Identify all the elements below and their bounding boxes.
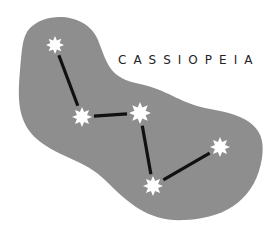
cassiopeia-diagram: CASSIOPEIA bbox=[0, 0, 278, 236]
star-icon bbox=[129, 102, 151, 124]
star-icon bbox=[46, 36, 64, 54]
star-icon bbox=[72, 107, 92, 127]
star-icon bbox=[143, 176, 163, 196]
constellation-title: CASSIOPEIA bbox=[118, 53, 259, 67]
star-icon bbox=[210, 137, 230, 157]
connection-line bbox=[94, 114, 127, 116]
